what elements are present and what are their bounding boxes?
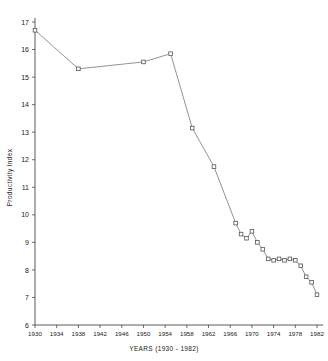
data-point-marker bbox=[261, 247, 265, 251]
data-point-marker bbox=[277, 257, 281, 261]
data-point-marker bbox=[304, 275, 308, 279]
data-point-marker bbox=[142, 60, 146, 64]
x-axis-tick-label: 1938 bbox=[72, 330, 86, 337]
y-axis-title: Productivity Index bbox=[6, 123, 13, 233]
x-axis-tick-label: 1942 bbox=[93, 330, 107, 337]
productivity-index-chart: 67891011121314151617 1930193419381942194… bbox=[0, 0, 328, 361]
data-point-marker bbox=[299, 264, 303, 268]
data-point-marker bbox=[288, 257, 292, 261]
x-axis-title: YEARS (1930 - 1982) bbox=[0, 345, 328, 352]
chart-plot-area: 67891011121314151617 1930193419381942194… bbox=[0, 0, 328, 361]
data-point-marker bbox=[212, 165, 216, 169]
x-axis-tick-label: 1946 bbox=[115, 330, 129, 337]
y-axis-tick-label: 11 bbox=[22, 184, 29, 191]
data-point-marker bbox=[266, 257, 270, 261]
x-axis-tick-group: 1930193419381942194619501954195819621966… bbox=[28, 325, 324, 337]
data-point-marker bbox=[77, 67, 81, 71]
y-axis-tick-label: 9 bbox=[25, 239, 29, 246]
data-point-marker bbox=[283, 258, 287, 262]
data-point-marker bbox=[33, 28, 37, 32]
data-point-marker bbox=[250, 230, 254, 234]
x-axis-tick-label: 1950 bbox=[137, 330, 151, 337]
data-point-marker bbox=[190, 126, 194, 130]
x-axis-tick-label: 1930 bbox=[28, 330, 42, 337]
y-axis-tick-label: 13 bbox=[21, 129, 29, 136]
series-marker-group bbox=[33, 28, 319, 296]
y-axis-tick-label: 14 bbox=[21, 101, 29, 108]
x-axis-tick-label: 1982 bbox=[310, 330, 324, 337]
x-axis-tick-label: 1966 bbox=[223, 330, 237, 337]
data-point-marker bbox=[315, 293, 319, 297]
x-axis-tick-label: 1978 bbox=[288, 330, 302, 337]
y-axis-tick-label: 6 bbox=[25, 322, 29, 329]
y-axis-tick-label: 15 bbox=[21, 74, 29, 81]
x-axis-tick-label: 1962 bbox=[202, 330, 216, 337]
y-axis-tick-label: 17 bbox=[21, 19, 29, 26]
x-axis-tick-label: 1970 bbox=[245, 330, 259, 337]
x-axis-tick-label: 1958 bbox=[180, 330, 194, 337]
x-axis-tick-label: 1934 bbox=[50, 330, 64, 337]
data-point-marker bbox=[239, 232, 243, 236]
data-point-marker bbox=[310, 281, 314, 285]
y-axis-tick-label: 8 bbox=[25, 267, 29, 274]
data-point-marker bbox=[272, 258, 276, 262]
data-point-marker bbox=[169, 52, 173, 56]
data-point-marker bbox=[245, 236, 249, 240]
y-axis-tick-label: 16 bbox=[21, 46, 29, 53]
y-axis-tick-label: 12 bbox=[21, 156, 29, 163]
x-axis-tick-label: 1974 bbox=[267, 330, 281, 337]
y-axis-tick-label: 10 bbox=[21, 211, 29, 218]
data-point-marker bbox=[294, 258, 298, 262]
y-axis-tick-label: 7 bbox=[25, 294, 29, 301]
data-point-marker bbox=[256, 241, 260, 245]
x-axis-tick-label: 1954 bbox=[158, 330, 172, 337]
y-axis-tick-group: 67891011121314151617 bbox=[21, 19, 35, 329]
data-point-marker bbox=[234, 221, 238, 225]
